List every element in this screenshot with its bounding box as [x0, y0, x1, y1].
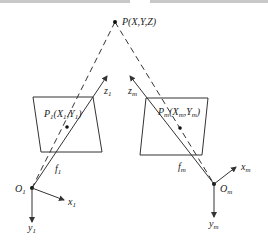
projection-ray-right [115, 22, 214, 184]
left-image-plane [33, 97, 102, 152]
right-x-axis [214, 167, 236, 184]
left-image-point-dot [65, 125, 69, 129]
left-optical-axis [32, 76, 107, 188]
left-z-axis-label: z1 [103, 85, 111, 98]
left-y-axis-label: y1 [27, 222, 36, 235]
left-x-axis-label: x1 [67, 196, 76, 209]
right-x-axis-label: xm [240, 161, 251, 174]
left-origin-label: O1 [15, 183, 26, 196]
right-image-point-label: Pm(Xm,Ym) [157, 106, 201, 119]
right-image-point-dot [178, 126, 182, 130]
right-y-axis-label: ym [208, 218, 219, 231]
diagram-svg: P(X,Y,Z) P1(X1,Y1) z1 f1 O1 x1 y1 Pm(Xm,… [0, 0, 268, 244]
stereo-vision-diagram: P(X,Y,Z) P1(X1,Y1) z1 f1 O1 x1 y1 Pm(Xm,… [0, 0, 268, 244]
right-origin-label: Om [220, 183, 232, 196]
left-x-axis [32, 188, 64, 200]
world-point-label: P(X,Y,Z) [121, 16, 157, 28]
left-focal-label: f1 [55, 163, 61, 176]
world-point-dot [113, 20, 117, 24]
left-image-point-label: P1(X1,Y1) [43, 108, 82, 121]
projection-ray-left [32, 22, 115, 188]
right-z-axis-label: zm [127, 85, 137, 98]
right-focal-label: fm [178, 161, 186, 174]
